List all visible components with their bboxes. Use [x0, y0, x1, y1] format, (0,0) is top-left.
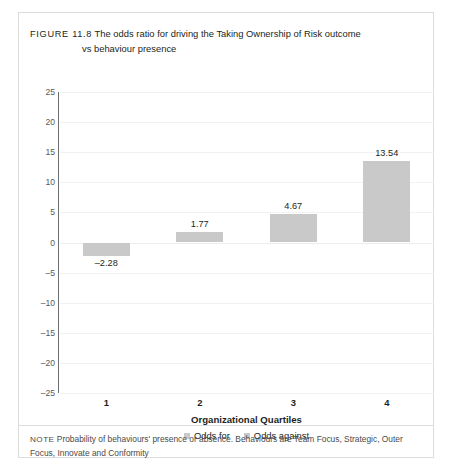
note-separator — [19, 425, 433, 426]
gridline — [60, 393, 434, 394]
y-axis-tick-label: 20 — [21, 117, 55, 127]
bar-value-label: 4.67 — [270, 201, 317, 211]
x-axis-tick-labels: 1234 — [60, 397, 434, 413]
bar-value-label: 13.54 — [363, 148, 410, 158]
note-tag: NOTE — [30, 435, 54, 444]
y-axis-tick-label: 0 — [21, 238, 55, 248]
gridline — [60, 303, 434, 304]
figure-caption: FIGURE 11.8 The odds ratio for driving t… — [30, 27, 426, 56]
y-axis-tick-label: 10 — [21, 177, 55, 187]
y-axis-tick-label: 15 — [21, 147, 55, 157]
y-axis-tick-labels: 2520151050–5–10–15–20–25 — [19, 71, 55, 376]
figure-note: NOTE Probability of behaviours' presence… — [30, 433, 422, 459]
bar — [270, 214, 317, 242]
figure-number: FIGURE 11.8 — [30, 29, 92, 39]
y-axis-tick-label: 25 — [21, 87, 55, 97]
y-axis-tick-label: –10 — [21, 298, 55, 308]
bar-value-label: 1.77 — [176, 219, 223, 229]
bar — [176, 232, 223, 243]
x-axis-tick-label: 1 — [104, 397, 109, 408]
figure-caption-line-2: vs behaviour presence — [82, 42, 426, 57]
bar — [83, 243, 130, 257]
y-axis-tick-label: –5 — [21, 268, 55, 278]
y-axis-tick-label: –20 — [21, 358, 55, 368]
figure-caption-line-1: The odds ratio for driving the Taking Ow… — [95, 28, 361, 39]
y-axis-tick-label: –25 — [21, 388, 55, 398]
gridline — [60, 92, 434, 93]
gridline — [60, 333, 434, 334]
figure-container: FIGURE 11.8 The odds ratio for driving t… — [18, 12, 434, 458]
gridline — [60, 122, 434, 123]
bar — [363, 161, 410, 243]
x-axis-tick-label: 2 — [197, 397, 202, 408]
gridline — [60, 363, 434, 364]
chart-plot-area: 2520151050–5–10–15–20–25 –2.281.774.6713… — [19, 71, 433, 396]
note-text: Probability of behaviours' presence or a… — [30, 434, 403, 458]
x-axis-title: Organizational Quartiles — [60, 414, 434, 425]
chart-canvas: –2.281.774.6713.54 — [60, 92, 434, 393]
x-axis-tick-label: 4 — [384, 397, 389, 408]
gridline — [60, 273, 434, 274]
y-axis-tick-label: 5 — [21, 207, 55, 217]
x-axis-tick-label: 3 — [291, 397, 296, 408]
y-axis-tick-label: –15 — [21, 328, 55, 338]
bar-value-label: –2.28 — [83, 258, 130, 268]
